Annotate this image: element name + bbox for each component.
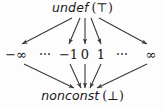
node-nonconst: nonconst(⊥)	[0, 90, 165, 103]
edge-undef-to-infinity	[99, 18, 147, 44]
node-undef-name: undef	[52, 0, 88, 15]
node-nonconst-symbol: (⊥)	[102, 88, 124, 103]
node-nonconst-name: nonconst	[41, 88, 99, 103]
node-neg-one: −1	[58, 47, 79, 62]
node-zero: 0	[78, 47, 92, 62]
ellipsis-right: ⋯	[111, 47, 133, 62]
ellipsis-left: ⋯	[34, 47, 56, 62]
middle-row: −∞ ⋯ −1 0 1 ⋯ ∞	[0, 47, 165, 63]
node-undef: undef(⊤)	[0, 2, 165, 15]
edge-neg-one-to-nonconst	[70, 64, 81, 88]
edge-undef-to-one	[91, 18, 101, 44]
node-one: 1	[94, 47, 108, 62]
edge-one-to-nonconst	[90, 64, 101, 88]
edge-group-bottom	[24, 64, 147, 88]
lattice-diagram: undef(⊤) −∞ ⋯ −1 0 1 ⋯ ∞ nonconst(⊥)	[0, 0, 165, 110]
edge-neg-infinity-to-nonconst	[24, 64, 74, 88]
edge-undef-to-neg-infinity	[22, 18, 72, 44]
edge-undef-to-neg-one	[69, 18, 80, 44]
node-neg-infinity: −∞	[2, 47, 30, 62]
edge-infinity-to-nonconst	[97, 64, 147, 88]
node-undef-symbol: (⊤)	[91, 0, 113, 15]
edge-group-top	[22, 18, 147, 44]
node-infinity: ∞	[139, 47, 163, 62]
